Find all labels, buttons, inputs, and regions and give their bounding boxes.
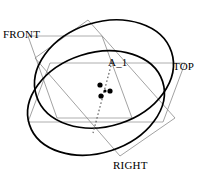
geometry-figure [0, 0, 202, 179]
diagram-canvas: FRONT TOP RIGHT A_1 [0, 0, 202, 179]
point-marker [107, 88, 112, 93]
label-front: FRONT [3, 29, 40, 40]
plane-front-left-edge [28, 36, 57, 118]
point-marker [103, 89, 106, 92]
plane-top [28, 63, 185, 122]
label-top: TOP [173, 61, 194, 72]
label-right: RIGHT [113, 160, 148, 171]
plane-front-right-edge [102, 36, 132, 118]
label-axis-a1: A_1 [108, 57, 128, 68]
point-marker [97, 82, 102, 87]
point-marker [98, 93, 103, 98]
plane-right-edge-d [35, 20, 88, 58]
plane-right-edge-c [35, 58, 120, 156]
plane-right-edge-b [120, 118, 175, 156]
point-cluster [97, 82, 112, 98]
